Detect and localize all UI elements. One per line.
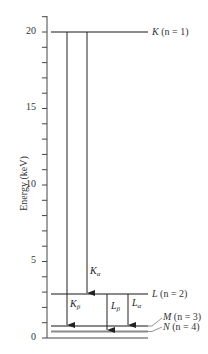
y-axis	[42, 16, 47, 338]
level-label-K: K (n = 1)	[152, 26, 188, 37]
y-axis-label: Energy (keV)	[18, 149, 29, 219]
energy-level-diagram	[0, 0, 208, 354]
level-label-L: L (n = 2)	[152, 288, 187, 299]
tick-label-0: 0	[16, 331, 36, 342]
tick-label-15: 15	[16, 101, 36, 112]
tick-label-20: 20	[16, 25, 36, 36]
transition-label-L-alpha: Lα	[132, 297, 141, 310]
tick-label-5: 5	[16, 254, 36, 265]
transition-label-L-beta: Lβ	[111, 300, 120, 313]
level-label-N: N (n = 4)	[163, 321, 199, 332]
transition-label-K-beta: Kβ	[70, 298, 80, 311]
transition-label-K-alpha: Kα	[90, 265, 100, 278]
